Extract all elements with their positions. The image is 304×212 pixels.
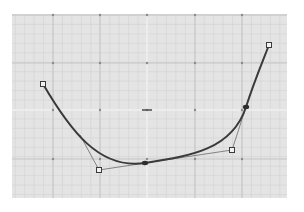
grid-dot — [241, 62, 243, 64]
anchor-point[interactable] — [243, 105, 249, 109]
grid-dot — [146, 14, 148, 16]
grid-dot — [194, 62, 196, 64]
grid-dot — [146, 62, 148, 64]
control-point-square[interactable] — [267, 43, 272, 48]
grid-dot — [99, 14, 101, 16]
grid-dot — [99, 158, 101, 160]
control-point-square[interactable] — [97, 168, 102, 173]
grid-dot — [241, 109, 243, 111]
grid-dot — [194, 14, 196, 16]
grid-dot — [52, 158, 54, 160]
grid-dot — [194, 109, 196, 111]
grid-dot — [241, 158, 243, 160]
grid-dot — [194, 158, 196, 160]
origin-marker — [142, 109, 152, 111]
control-point-square[interactable] — [41, 82, 46, 87]
anchor-point[interactable] — [142, 161, 148, 165]
grid-dot — [99, 109, 101, 111]
bezier-path-editor-canvas[interactable] — [0, 0, 304, 212]
grid-dot — [146, 158, 148, 160]
grid-dot — [52, 62, 54, 64]
grid-dot — [52, 14, 54, 16]
grid-dot — [99, 62, 101, 64]
grid-dot — [52, 109, 54, 111]
control-point-square[interactable] — [230, 148, 235, 153]
grid-dot — [241, 14, 243, 16]
